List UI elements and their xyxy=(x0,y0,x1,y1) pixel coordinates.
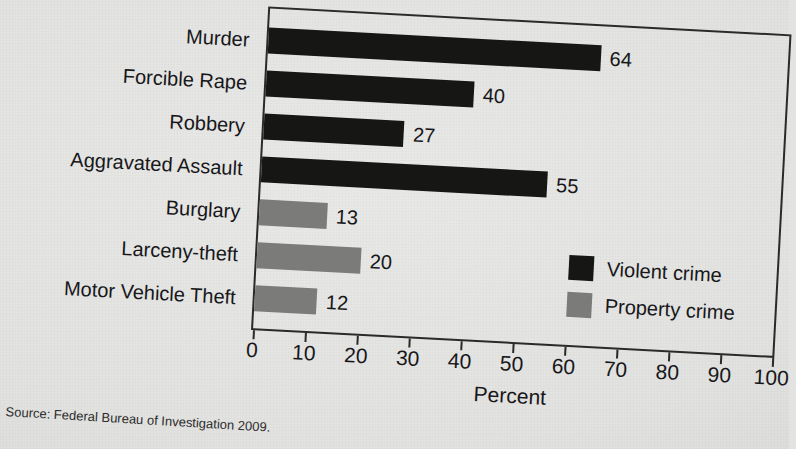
category-label-murder: Murder xyxy=(186,25,250,50)
bar-value-label: 40 xyxy=(482,84,505,107)
bar-value-label: 12 xyxy=(325,291,348,314)
x-tick-label: 20 xyxy=(343,343,368,368)
bar-value-label: 55 xyxy=(556,174,579,197)
category-label-robbery: Robbery xyxy=(169,110,246,136)
chart-legend: Violent crimeProperty crime xyxy=(566,253,738,336)
bar-value-label: 27 xyxy=(412,123,435,146)
legend-item: Property crime xyxy=(566,290,735,327)
legend-swatch-icon xyxy=(568,254,594,280)
x-tick-label: 30 xyxy=(395,346,420,371)
x-tick-label: 50 xyxy=(499,351,524,376)
bar-forcible-rape xyxy=(265,71,474,108)
x-tick-label: 80 xyxy=(655,360,680,385)
bar-value-label: 13 xyxy=(335,205,358,228)
bar-chart-figure: MurderForcible RapeRobberyAggravated Ass… xyxy=(0,0,796,449)
category-axis-labels: MurderForcible RapeRobberyAggravated Ass… xyxy=(0,0,261,328)
bar-motor-vehicle-theft xyxy=(254,285,318,314)
legend-label: Violent crime xyxy=(606,257,722,286)
bar-value-label: 20 xyxy=(369,250,392,273)
x-tick-label: 0 xyxy=(245,338,258,363)
category-label-aggravated-assault: Aggravated Assault xyxy=(70,148,243,179)
x-tick-label: 90 xyxy=(707,362,732,387)
bar-murder xyxy=(268,28,602,72)
bar-robbery xyxy=(263,113,405,146)
bar-value-label: 64 xyxy=(609,48,632,71)
category-label-forcible-rape: Forcible Rape xyxy=(122,65,248,94)
category-label-motor-vehicle-theft: Motor Vehicle Theft xyxy=(63,277,236,308)
bar-burglary xyxy=(259,199,328,229)
legend-swatch-icon xyxy=(566,291,592,317)
x-tick-label: 60 xyxy=(551,354,576,379)
x-tick-label: 70 xyxy=(603,357,628,382)
x-tick-label: 10 xyxy=(292,340,317,365)
x-tick-label: 100 xyxy=(753,365,789,391)
x-tick-label: 40 xyxy=(447,349,472,374)
category-label-larceny-theft: Larceny-theft xyxy=(121,237,239,265)
category-label-burglary: Burglary xyxy=(165,196,241,222)
bar-larceny-theft xyxy=(256,242,361,273)
legend-label: Property crime xyxy=(604,294,735,324)
